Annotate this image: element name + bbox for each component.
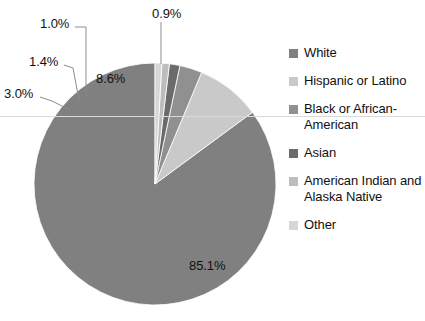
- legend-item[interactable]: Asian: [289, 145, 425, 161]
- legend-swatch-icon: [289, 177, 298, 186]
- legend-item-label: White: [304, 45, 337, 61]
- legend-item[interactable]: Black or African-American: [289, 101, 425, 133]
- slice-label-american-indian: 1.0%: [40, 16, 69, 31]
- legend-item-label: Black or African-American: [304, 101, 425, 133]
- pie-chart-figure: 0.9% 1.0% 1.4% 3.0% 8.6% 85.1% WhiteHisp…: [0, 0, 425, 321]
- legend-swatch-icon: [289, 77, 298, 86]
- legend: WhiteHispanic or LatinoBlack or African-…: [289, 45, 425, 245]
- leader-line-asian-a: [64, 65, 73, 68]
- legend-item-label: American Indian and Alaska Native: [304, 173, 425, 205]
- slice-label-white: 85.1%: [189, 258, 225, 273]
- pie-slices: [34, 63, 276, 305]
- legend-swatch-icon: [289, 49, 298, 58]
- legend-swatch-icon: [289, 221, 298, 230]
- slice-label-black: 3.0%: [4, 86, 33, 101]
- legend-item-label: Other: [304, 217, 336, 233]
- slice-label-hispanic: 8.6%: [96, 71, 125, 86]
- legend-item-label: Asian: [304, 145, 336, 161]
- legend-item[interactable]: White: [289, 45, 425, 61]
- legend-item-label: Hispanic or Latino: [304, 73, 406, 89]
- legend-item[interactable]: Other: [289, 217, 425, 233]
- leader-line-black-a: [40, 97, 52, 101]
- legend-swatch-icon: [289, 149, 298, 158]
- slice-label-other: 0.9%: [152, 6, 181, 21]
- slice-label-asian: 1.4%: [29, 54, 58, 69]
- legend-item[interactable]: American Indian and Alaska Native: [289, 173, 425, 205]
- legend-swatch-icon: [289, 105, 298, 114]
- legend-item[interactable]: Hispanic or Latino: [289, 73, 425, 89]
